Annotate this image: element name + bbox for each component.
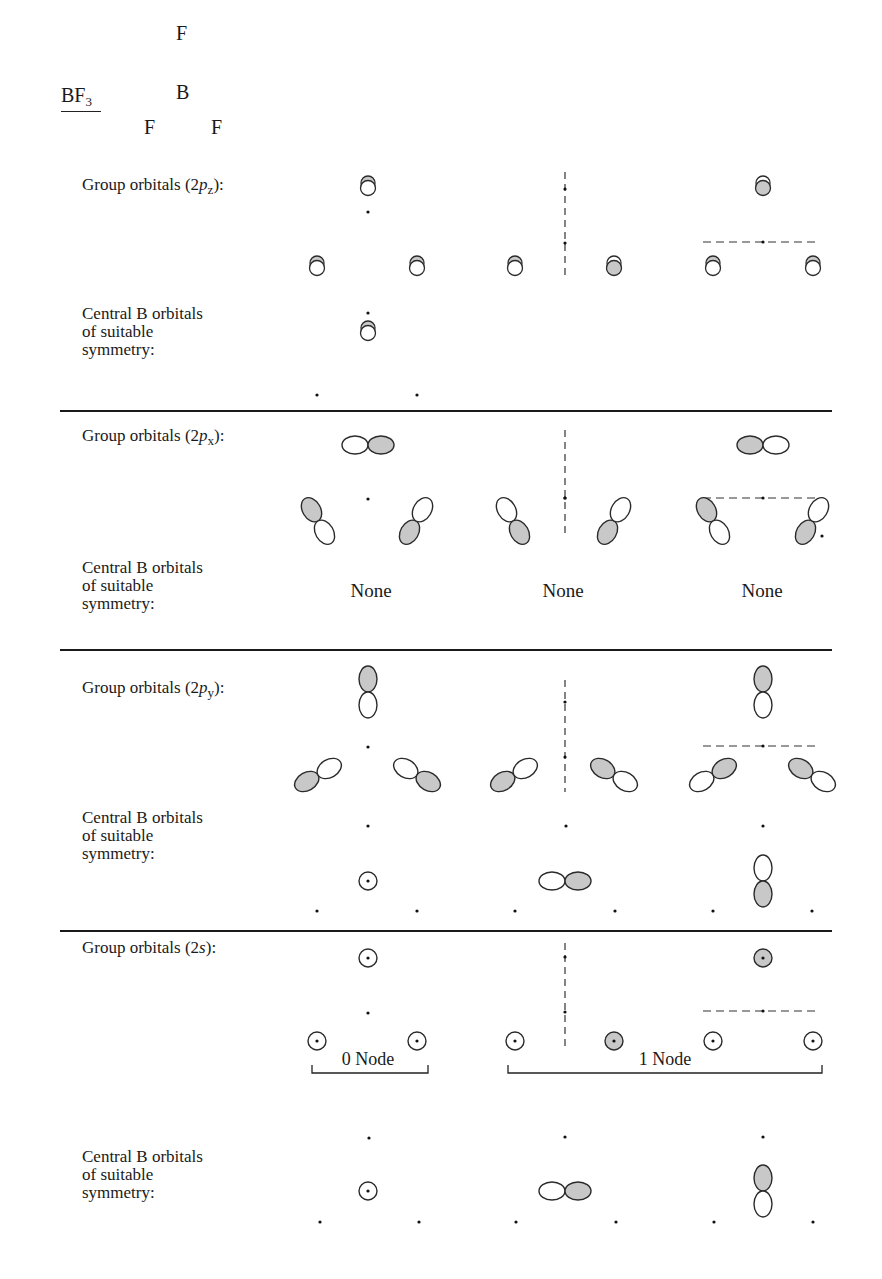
p-orbital-icon [737, 436, 789, 454]
s-orbital-icon [408, 1032, 426, 1050]
atom-position-dot [318, 1220, 321, 1223]
orbital-drawing [0, 0, 882, 1279]
atom-position-dot [820, 534, 823, 537]
pz-orbital-icon [361, 176, 376, 196]
atom-position-dot [415, 393, 418, 396]
atom-position-dot [761, 824, 764, 827]
atom-position-dot [367, 1136, 370, 1139]
atom-position-dot [563, 1135, 566, 1138]
p-orbital-icon [754, 1165, 772, 1217]
atom-position-dot [563, 755, 566, 758]
p-orbital-icon [539, 1182, 591, 1200]
pz-orbital-icon [756, 176, 771, 196]
atom-position-dot [614, 1220, 617, 1223]
pz-orbital-icon [310, 256, 325, 276]
atom-position-dot [366, 311, 369, 314]
atom-position-dot [417, 1220, 420, 1223]
pz-orbital-icon [706, 256, 721, 276]
p-orbital-icon [291, 754, 345, 796]
p-orbital-icon [297, 494, 339, 548]
node-group-bracket [312, 1065, 428, 1073]
atom-position-dot [563, 1010, 566, 1013]
atom-position-dot [564, 824, 567, 827]
atom-position-dot [514, 1220, 517, 1223]
p-orbital-icon [791, 494, 833, 548]
p-orbital-icon [492, 494, 534, 548]
atom-position-dot [563, 700, 566, 703]
p-orbital-icon [487, 754, 541, 796]
atom-position-dot [366, 497, 369, 500]
s-orbital-icon [359, 949, 377, 967]
atom-position-dot [563, 241, 566, 244]
atom-position-dot [366, 745, 369, 748]
s-orbital-icon [359, 1182, 377, 1200]
pz-orbital-icon [607, 256, 622, 276]
s-orbital-icon [704, 1032, 722, 1050]
p-orbital-icon [359, 666, 377, 718]
atom-position-dot [315, 393, 318, 396]
p-orbital-icon [754, 666, 772, 718]
p-orbital-icon [587, 754, 641, 796]
p-orbital-icon [754, 855, 772, 907]
s-orbital-icon [308, 1032, 326, 1050]
p-orbital-icon [342, 436, 394, 454]
p-orbital-icon [395, 494, 437, 548]
atom-position-dot [366, 210, 369, 213]
s-orbital-icon [359, 872, 377, 890]
pz-orbital-icon [361, 321, 376, 341]
pz-orbital-icon [410, 256, 425, 276]
s-orbital-icon [605, 1032, 623, 1050]
atom-position-dot [563, 496, 566, 499]
atom-position-dot [366, 1011, 369, 1014]
atom-position-dot [315, 909, 318, 912]
atom-position-dot [810, 909, 813, 912]
s-orbital-icon [506, 1032, 524, 1050]
atom-position-dot [811, 1220, 814, 1223]
atom-position-dot [761, 496, 764, 499]
p-orbital-icon [593, 494, 635, 548]
pz-orbital-icon [806, 256, 821, 276]
p-orbital-icon [686, 754, 740, 796]
atom-position-dot [513, 909, 516, 912]
atom-position-dot [563, 187, 566, 190]
p-orbital-icon [692, 494, 734, 548]
node-group-bracket [508, 1065, 822, 1073]
atom-position-dot [366, 824, 369, 827]
atom-position-dot [415, 909, 418, 912]
atom-position-dot [761, 1135, 764, 1138]
atom-position-dot [712, 1220, 715, 1223]
p-orbital-icon [390, 754, 444, 796]
p-orbital-icon [539, 872, 591, 890]
atom-position-dot [563, 955, 566, 958]
s-orbital-icon [754, 949, 772, 967]
p-orbital-icon [785, 754, 839, 796]
atom-position-dot [711, 909, 714, 912]
s-orbital-icon [804, 1032, 822, 1050]
pz-orbital-icon [508, 256, 523, 276]
atom-position-dot [761, 744, 764, 747]
atom-position-dot [613, 909, 616, 912]
atom-position-dot [761, 1009, 764, 1012]
atom-position-dot [761, 240, 764, 243]
